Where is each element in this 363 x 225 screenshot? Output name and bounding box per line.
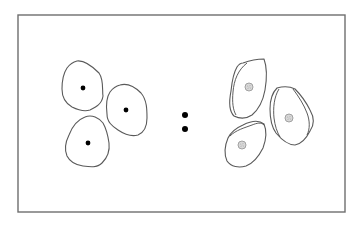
colon-dot-top-icon xyxy=(182,112,188,118)
chromatin-speck-icon xyxy=(249,85,250,86)
left-cell-3 xyxy=(66,116,110,167)
left-cell-1 xyxy=(62,61,103,111)
chromatin-speck-icon xyxy=(247,85,248,86)
left-cell-group xyxy=(62,61,147,167)
chromatin-speck-icon xyxy=(287,116,288,117)
chromatin-speck-icon xyxy=(290,118,291,119)
left-cell-2 xyxy=(106,84,147,135)
ratio-separator xyxy=(182,112,188,132)
chromatin-speck-icon xyxy=(243,145,244,146)
right-cell-2 xyxy=(270,87,313,145)
dense-nucleus-icon xyxy=(124,108,129,113)
colon-dot-bottom-icon xyxy=(182,126,188,132)
right-cell-1 xyxy=(230,59,267,118)
cell-comparison-diagram xyxy=(0,0,363,225)
right-cell-group xyxy=(225,59,313,167)
chromatin-speck-icon xyxy=(250,87,251,88)
chromatin-speck-icon xyxy=(241,144,242,145)
chromatin-speck-icon xyxy=(247,88,248,89)
dense-nucleus-icon xyxy=(86,141,91,146)
dense-nucleus-icon xyxy=(81,86,86,91)
chromatin-speck-icon xyxy=(240,143,241,144)
right-cell-3 xyxy=(225,121,266,166)
chromatin-speck-icon xyxy=(287,119,288,120)
chromatin-speck-icon xyxy=(240,146,241,147)
chromatin-speck-icon xyxy=(242,143,243,144)
chromatin-speck-icon xyxy=(248,86,249,87)
chromatin-speck-icon xyxy=(288,117,289,118)
chromatin-speck-icon xyxy=(289,116,290,117)
